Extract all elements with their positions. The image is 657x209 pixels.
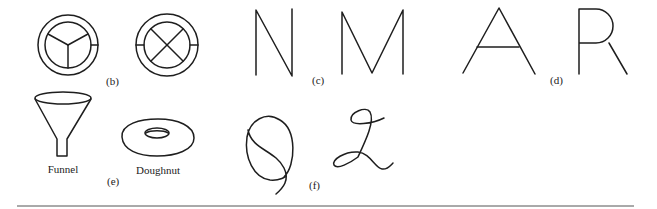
doughnut-drawing xyxy=(122,119,194,156)
panel-e: Funnel Doughnut (e) xyxy=(35,92,194,188)
cursive-z xyxy=(334,110,393,170)
panel-d: (d) xyxy=(463,8,627,87)
panel-c: (c) xyxy=(256,9,403,87)
letter-m xyxy=(342,10,403,74)
panel-label-b: (b) xyxy=(106,75,119,88)
panel-b: (b) xyxy=(38,14,198,88)
panel-label-f: (f) xyxy=(309,179,320,192)
panel-label-d: (d) xyxy=(550,74,563,87)
panel-label-e: (e) xyxy=(107,175,120,188)
letter-r xyxy=(579,9,627,74)
figure-canvas: (b) (c) (d) Funnel Doughnut (e) xyxy=(0,0,657,209)
circle-x-divider xyxy=(136,14,198,76)
circle-y-divider xyxy=(38,15,98,75)
funnel-drawing xyxy=(35,92,91,156)
funnel-caption: Funnel xyxy=(48,163,79,175)
doughnut-caption: Doughnut xyxy=(136,164,180,176)
letter-a xyxy=(463,8,535,74)
cursive-q xyxy=(246,116,292,194)
panel-f: (f) xyxy=(246,110,393,194)
letter-n xyxy=(256,9,292,76)
panel-label-c: (c) xyxy=(312,74,325,87)
